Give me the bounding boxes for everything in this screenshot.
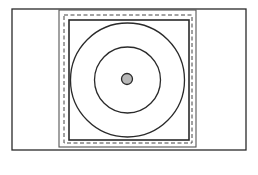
center-dot	[122, 74, 133, 85]
target-diagram	[0, 0, 258, 175]
